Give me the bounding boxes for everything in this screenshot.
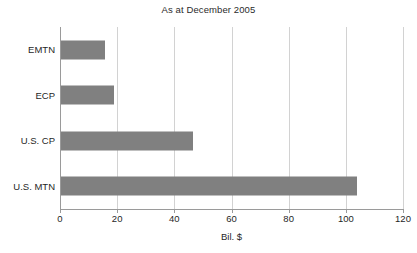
y-tick-label: ECP [35,73,55,119]
x-tick-label: 40 [169,213,180,224]
bar-row [60,118,403,164]
gridline [403,27,404,209]
y-axis-tick-labels: EMTNECPU.S. CPU.S. MTN [0,27,55,209]
x-tick-label: 100 [338,213,354,224]
y-tick-label: U.S. MTN [13,164,55,210]
bars-layer [60,27,403,209]
bar-row [60,73,403,119]
x-tick-label: 80 [283,213,294,224]
x-tick-label: 60 [226,213,237,224]
chart-title: As at December 2005 [0,4,417,15]
bar-row [60,27,403,73]
plot-area [60,27,403,209]
x-tick-label: 20 [112,213,123,224]
bar-u-s-cp [60,131,193,150]
bar-row [60,164,403,210]
x-tick-label: 120 [395,213,411,224]
y-axis-line [60,27,61,209]
x-tick-label: 0 [57,213,62,224]
y-tick-label: EMTN [28,27,55,73]
x-axis-tick-labels: 020406080100120 [60,213,403,227]
bar-chart-figure: As at December 2005 EMTNECPU.S. CPU.S. M… [0,0,417,253]
bar-u-s-mtn [60,177,357,196]
x-axis-title: Bil. $ [60,231,403,242]
bar-ecp [60,86,114,105]
y-tick-label: U.S. CP [21,118,55,164]
bar-emtn [60,40,105,59]
